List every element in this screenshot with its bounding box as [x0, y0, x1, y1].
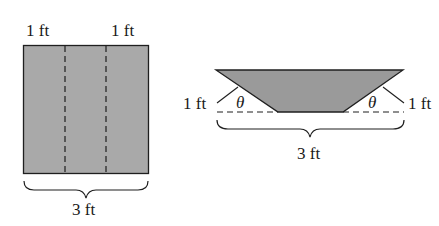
width-brace [24, 181, 148, 198]
side-label-right: 1 ft [408, 94, 431, 113]
flat-sheet: 1 ft 1 ft 3 ft [24, 21, 149, 219]
leader-line-left [217, 87, 238, 103]
top-label-left: 1 ft [26, 21, 49, 40]
width-label: 3 ft [72, 200, 95, 219]
side-label-left: 1 ft [183, 94, 206, 113]
angle-label-right: θ [368, 93, 376, 112]
gutter-cross-section: 1 ft 1 ft θ θ 3 ft [183, 70, 431, 163]
sheet-rectangle [24, 46, 149, 174]
angle-label-left: θ [236, 93, 244, 112]
width-brace-right [217, 120, 404, 137]
gutter-diagram: 1 ft 1 ft 3 ft 1 ft 1 ft θ θ 3 ft [0, 0, 439, 226]
top-label-right: 1 ft [111, 21, 134, 40]
leader-line-right [383, 87, 404, 103]
width-label-right: 3 ft [297, 144, 320, 163]
